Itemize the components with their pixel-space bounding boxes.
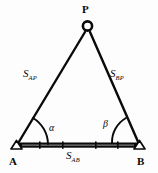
side-label-ab: SAB bbox=[66, 150, 80, 164]
baseline-tick bbox=[62, 141, 64, 148]
side-label-bp-subscript: BP bbox=[116, 74, 124, 81]
baseline-tick bbox=[39, 141, 41, 148]
side-label-ap-subscript: AP bbox=[29, 74, 37, 81]
diagram-canvas bbox=[0, 0, 158, 173]
vertex-label-p: P bbox=[82, 4, 89, 15]
triangulation-diagram: P A B SAP SBP SAB α β bbox=[0, 0, 158, 173]
angle-label-beta: β bbox=[103, 119, 108, 129]
baseline-tick bbox=[95, 141, 97, 148]
baseline-tick bbox=[117, 141, 119, 148]
vertex-label-b: B bbox=[137, 156, 144, 167]
angle-label-alpha: α bbox=[49, 123, 54, 133]
angle-arc-alpha bbox=[33, 118, 48, 144]
vertex-label-a: A bbox=[9, 156, 17, 167]
side-label-ab-subscript: AB bbox=[72, 156, 80, 163]
side-line-bp bbox=[90, 32, 139, 144]
side-label-bp: SBP bbox=[110, 68, 124, 82]
station-marker-p bbox=[83, 21, 92, 30]
angle-arc-beta bbox=[112, 118, 126, 143]
side-label-ap: SAP bbox=[23, 68, 37, 82]
